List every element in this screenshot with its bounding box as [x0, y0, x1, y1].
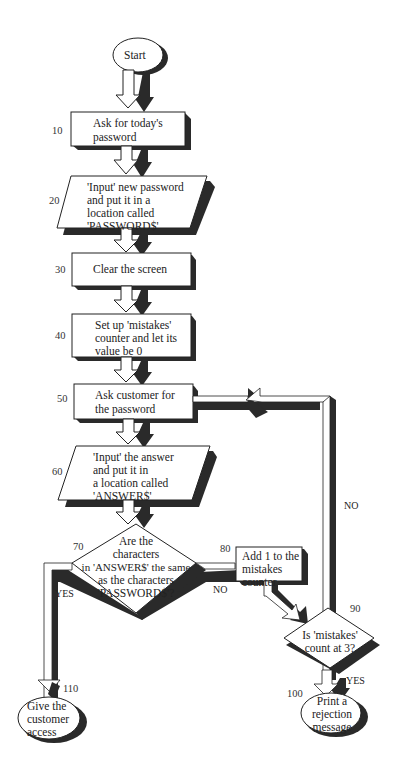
node-80-line-2: mistakes — [242, 562, 282, 576]
node-70-line-3: in 'ANSWER$' the same — [80, 560, 192, 574]
edge-label-no-70: NO — [213, 583, 227, 597]
node-40-line-2: counter and let its — [95, 331, 177, 345]
node-70-line-2: characters — [86, 547, 186, 561]
node-20-line-2: and put it in a — [87, 193, 150, 207]
node-10-line-1: Ask for today's — [93, 116, 163, 130]
start-label: Start — [124, 48, 146, 62]
arrow-50-to-60 — [116, 419, 154, 448]
step-number-90: 90 — [350, 603, 361, 614]
node-100-line-1: Print a — [306, 694, 358, 708]
node-110-line-3: access — [27, 725, 56, 739]
edge-label-yes-90: YES — [346, 674, 365, 688]
node-20-line-3: location called — [87, 206, 154, 220]
node-60-line-4: 'ANSWER$' — [93, 489, 151, 503]
node-90-line-1: Is 'mistakes' — [290, 628, 370, 642]
step-number-50: 50 — [57, 393, 68, 404]
node-60-line-3: a location called — [93, 476, 168, 490]
node-20-line-4: 'PASSWORD$' — [87, 219, 158, 233]
node-80-line-1: Add 1 to the — [242, 549, 299, 563]
edge-label-yes-70: YES — [55, 587, 74, 601]
node-110-line-1: Give the — [27, 699, 66, 713]
edge-label-no-90: NO — [344, 499, 358, 513]
node-20-line-1: 'Input' new password — [87, 180, 184, 194]
flowchart-canvas — [0, 0, 405, 780]
arrow-start-to-10 — [116, 70, 154, 112]
node-50-line-1: Ask customer for — [95, 388, 175, 402]
arrow-30-to-40 — [114, 286, 152, 316]
step-number-100: 100 — [287, 688, 303, 699]
node-60-line-1: 'Input' the answer — [93, 450, 174, 464]
step-number-70: 70 — [73, 541, 84, 552]
node-70-line-5: 'PASSWORD$'? — [86, 586, 186, 600]
step-number-80: 80 — [220, 543, 231, 554]
node-80-line-3: counter — [242, 575, 276, 589]
node-110-line-2: customer — [27, 712, 69, 726]
step-number-110: 110 — [63, 683, 78, 694]
node-90-line-2: count at 3? — [290, 641, 370, 655]
arrow-10-to-20 — [114, 146, 152, 178]
step-number-60: 60 — [52, 466, 63, 477]
arrow-40-to-50 — [114, 357, 152, 386]
node-100-line-3: message — [306, 720, 358, 734]
step-number-40: 40 — [55, 330, 66, 341]
step-number-10: 10 — [52, 125, 63, 136]
node-40-line-1: Set up 'mistakes' — [95, 318, 171, 332]
node-50-line-2: the password — [95, 402, 155, 416]
step-number-30: 30 — [55, 264, 66, 275]
node-70-line-1: Are the — [86, 534, 186, 548]
node-10-line-2: password — [93, 130, 136, 144]
node-60-line-2: and put it in — [93, 463, 148, 477]
node-30-line-1: Clear the screen — [93, 262, 167, 276]
node-100-line-2: rejection — [306, 707, 358, 721]
node-40-line-3: value be 0 — [95, 344, 142, 358]
step-number-20: 20 — [49, 195, 60, 206]
node-70-line-4: as the characters — [86, 573, 186, 587]
